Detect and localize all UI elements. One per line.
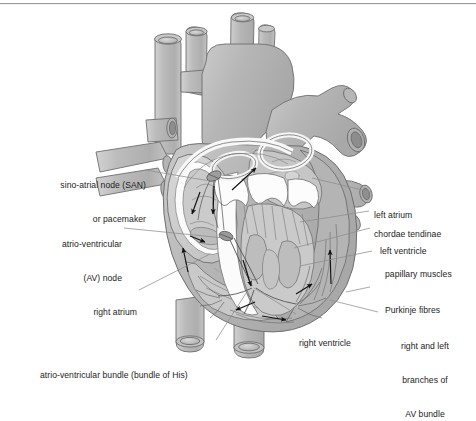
- label-papillary-text: papillary muscles: [385, 269, 476, 280]
- leader-av-branches: [330, 300, 378, 312]
- label-av-bundle: atrio-ventricular bundle (bundle of His): [40, 347, 280, 393]
- label-avnode-line1: atrio-ventricular: [8, 239, 122, 250]
- figure-top-rule: [0, 3, 476, 4]
- label-san-line1: sino-atrial node (SAN): [8, 180, 146, 191]
- label-avnode-line2: (AV) node: [8, 273, 122, 284]
- label-purkinje-text: Purkinje fibres: [385, 305, 476, 316]
- label-right-atrium-text: right atrium: [8, 307, 137, 318]
- label-avbranch-line3: AV bundle: [381, 409, 469, 420]
- leader-purkinje: [346, 287, 370, 292]
- label-right-atrium: right atrium: [8, 284, 137, 330]
- label-av-bundle-text: atrio-ventricular bundle (bundle of His): [40, 370, 280, 381]
- label-av-branches: right and left branches of AV bundle: [381, 318, 469, 421]
- label-avbranch-line1: right and left: [381, 341, 469, 352]
- label-avbranch-line2: branches of: [381, 375, 469, 386]
